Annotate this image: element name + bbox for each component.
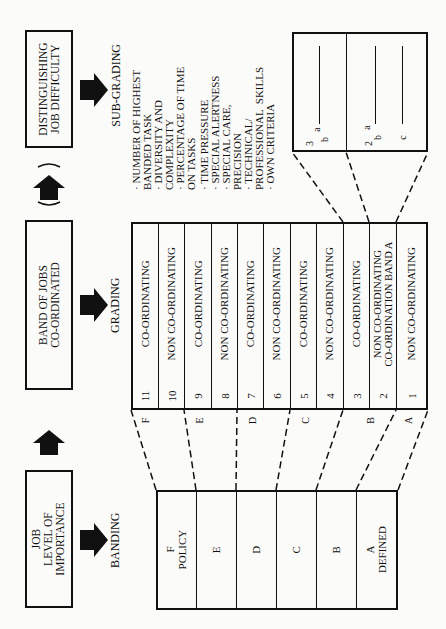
grade-label: NON CO-ORDINATING: [324, 247, 336, 360]
grade-row: 6 NON CO-ORDINATING: [263, 224, 290, 408]
grade-label: CO-ORDINATING: [140, 261, 152, 348]
grade-row: 5 CO-ORDINATING: [290, 224, 316, 408]
stage-box-job-difficulty: DISTINGUISHING JOB DIFFICULTY: [25, 30, 73, 148]
grade-row: 3 CO-ORDINATING: [343, 224, 369, 408]
banding-label: BANDING: [105, 500, 127, 580]
sub-grade-letter: b: [372, 135, 383, 140]
sub-grading-label: SUB-GRADING: [105, 30, 127, 140]
band-label: A DEFINED: [365, 526, 388, 573]
grade-row: 10 NON CO-ORDINATING: [158, 224, 184, 408]
arrow-up-icon: [33, 430, 65, 455]
grade-label: CO-ORDINATING: [192, 261, 204, 348]
stage-label: BAND OF JOBS CO-ORDINATED: [37, 262, 61, 348]
band-row: C: [276, 492, 316, 608]
grade-label: CO-ORDINATING: [245, 261, 257, 348]
grade-label: NON CO-ORDINATING: [406, 247, 418, 360]
grade-row: 4 NON CO-ORDINATING: [316, 224, 343, 408]
arrow-right-subgrading-icon: [80, 73, 108, 107]
band-marker: F: [140, 418, 151, 424]
band-label: B: [331, 546, 343, 553]
band-marker: E: [194, 417, 205, 423]
grade-label: CO-ORDINATING: [298, 261, 310, 348]
sub-grade-letter: a: [311, 127, 322, 131]
sub-grading-box: a b 3 a b c 2: [292, 32, 428, 152]
band-row: A DEFINED: [356, 492, 396, 608]
band-marker: D: [247, 417, 258, 424]
sub-grading-divider: [346, 34, 347, 150]
grading-table: 11 CO-ORDINATING 10 NON CO-ORDINATING 9 …: [131, 222, 428, 410]
sub-grade-letter: a: [361, 125, 372, 129]
band-label: D: [251, 546, 263, 554]
criterion-item: · OWN CRITERIA: [265, 15, 276, 190]
grade-label: NON CO-ORDINATING: [219, 247, 231, 360]
sub-grade-number: 3: [304, 141, 315, 146]
band-row: D: [236, 492, 276, 608]
grade-label: NON CO-ORDINATING: [271, 247, 283, 360]
sub-grade-line: [319, 46, 320, 124]
band-row: B: [316, 492, 356, 608]
arrow-up-icon: [33, 175, 65, 200]
band-marker: A: [403, 417, 414, 424]
band-label: E: [211, 547, 223, 554]
criterion-item: · SPECIAL CARE, PRECISION: [221, 15, 243, 190]
grade-row: 2 NON CO-ORDINATING CO-ORDINATION BAND A: [369, 224, 396, 408]
grade-row: 11 CO-ORDINATING: [131, 224, 158, 408]
stage-box-band-of-jobs: BAND OF JOBS CO-ORDINATED: [25, 220, 73, 390]
sub-grade-letter: c: [397, 135, 408, 139]
sub-grade-line: [402, 46, 403, 124]
band-marker: C: [300, 417, 311, 424]
band-label: C: [291, 546, 303, 553]
grade-row: 1 NON CO-ORDINATING: [396, 224, 426, 408]
stage-label: DISTINGUISHING JOB DIFFICULTY: [37, 42, 61, 135]
criterion-item: · PERCENTAGE OF TIME ON TASKS: [175, 15, 197, 190]
band-row: F POLICY: [156, 492, 196, 608]
grade-row: 7 CO-ORDINATING: [237, 224, 263, 408]
grade-row: 9 CO-ORDINATING: [184, 224, 211, 408]
grade-label: NON CO-ORDINATING: [166, 247, 178, 360]
sub-grade-line: [375, 46, 376, 124]
band-row: E: [196, 492, 236, 608]
arrow-right-grading-icon: [80, 288, 108, 322]
arrow-right-banding-icon: [80, 523, 108, 557]
band-label: F POLICY: [165, 530, 188, 570]
grade-label: CO-ORDINATING: [351, 261, 363, 348]
banding-table: F POLICY E D C B A DEFINED: [156, 490, 398, 610]
grade-label: NON CO-ORDINATING CO-ORDINATION BAND A: [372, 242, 394, 367]
grading-label: GRADING: [105, 265, 127, 345]
grade-row: 8 NON CO-ORDINATING: [211, 224, 237, 408]
criterion-item: · DIVERSITY AND COMPLEXITY: [153, 15, 175, 190]
stage-box-job-level: JOB LEVEL OF IMPORTANCE: [25, 470, 73, 608]
stage-label: JOB LEVEL OF IMPORTANCE: [31, 502, 67, 575]
criterion-item: · NUMBER OF HIGHEST BANDED TASK: [131, 15, 153, 190]
sub-grade-number: 2: [363, 141, 374, 146]
band-marker: B: [365, 417, 376, 424]
criterion-item: · TECHNICAL/ PROFESSIONAL SKILLS: [243, 15, 265, 190]
sub-grade-letter: b: [319, 137, 330, 142]
